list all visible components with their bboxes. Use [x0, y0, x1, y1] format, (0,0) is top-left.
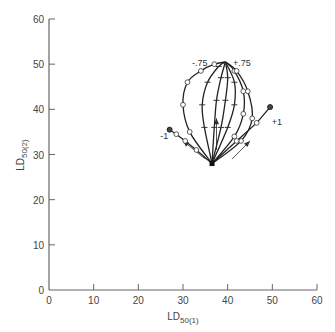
y-tick-label: 50	[33, 59, 45, 70]
y-axis-title: LD50(2)	[15, 139, 29, 171]
curve-label: +.75	[233, 58, 251, 68]
y-tick-label: 40	[33, 104, 45, 115]
x-tick-label: 60	[311, 295, 323, 306]
y-tick-label: 0	[38, 285, 44, 296]
origin-marker	[210, 161, 215, 166]
x-tick-label: 30	[177, 295, 189, 306]
x-tick-label: 10	[88, 295, 100, 306]
y-tick-label: 30	[33, 150, 45, 161]
x-tick-label: 20	[133, 295, 145, 306]
x-tick-label: 50	[267, 295, 279, 306]
curves	[167, 62, 273, 166]
y-tick-label: 60	[33, 14, 45, 25]
y-tick-label: 10	[33, 240, 45, 251]
axes: 01020304050600102030405060	[33, 14, 323, 306]
y-tick-label: 20	[33, 195, 45, 206]
curve-label: +1	[272, 117, 282, 127]
x-axis-title: LD50(1)	[167, 311, 199, 325]
curve-label: -.75	[192, 58, 208, 68]
chart: 01020304050600102030405060 -1-.75+.75+1 …	[0, 0, 335, 332]
x-tick-label: 0	[46, 295, 52, 306]
x-tick-label: 40	[222, 295, 234, 306]
curve-label: -1	[160, 131, 168, 141]
